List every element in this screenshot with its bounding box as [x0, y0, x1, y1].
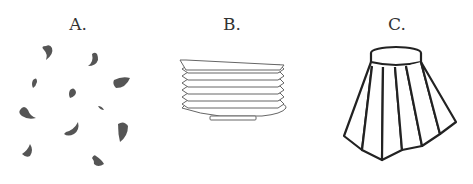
pleated-skirt-icon	[310, 0, 473, 184]
panel-b: B.	[160, 0, 310, 184]
plate-stack-icon	[160, 0, 310, 184]
petals-icon	[0, 0, 160, 184]
panel-a: A.	[0, 0, 160, 184]
panel-c: C.	[310, 0, 473, 184]
